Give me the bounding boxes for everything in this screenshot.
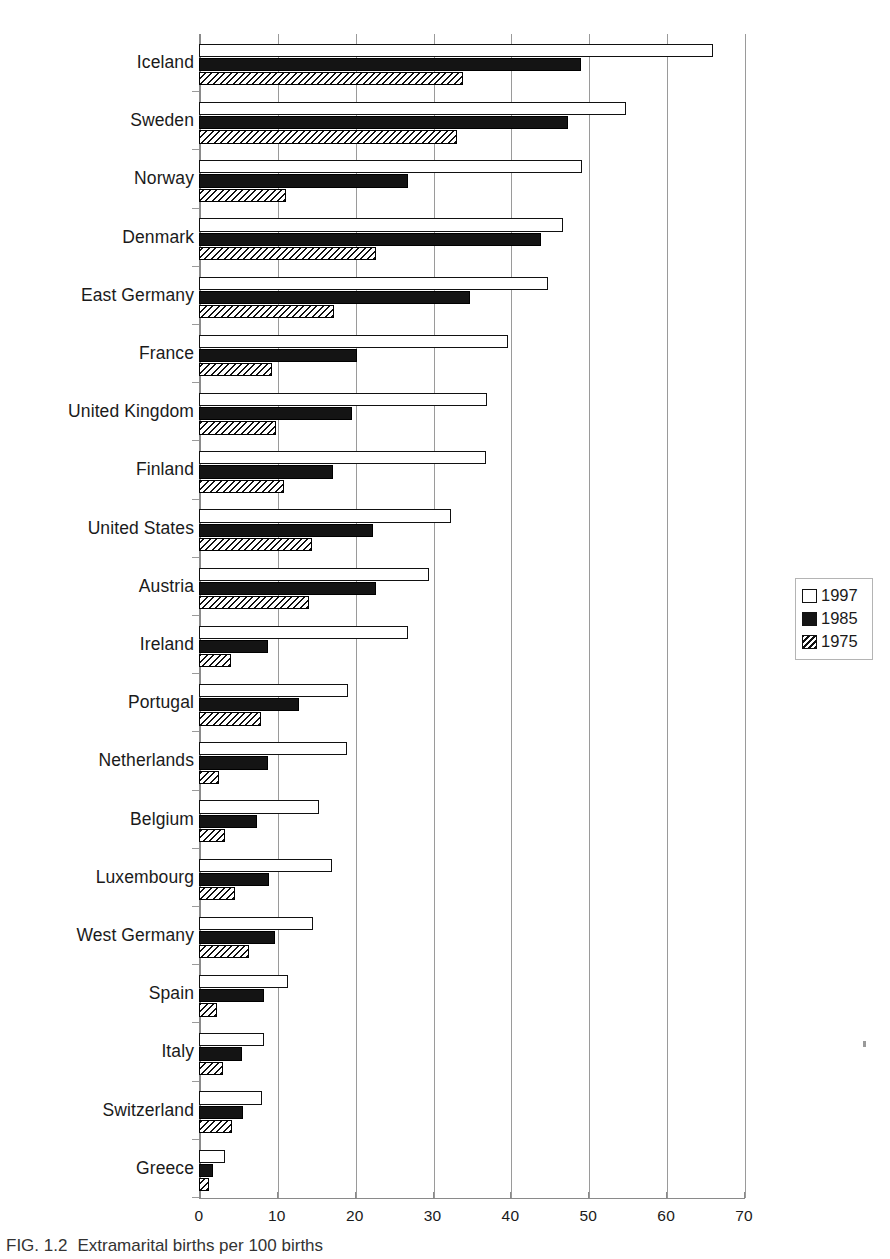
x-axis-tick-label: 20 <box>346 1207 364 1225</box>
chart-row: West Germany <box>0 907 890 965</box>
bar-1985 <box>199 640 268 653</box>
bar-1975 <box>199 829 225 842</box>
bar-1985 <box>199 931 275 944</box>
x-axis-tick-label: 60 <box>657 1207 675 1225</box>
bar-1975 <box>199 363 272 376</box>
bar-1985 <box>199 407 352 420</box>
bar-1997 <box>199 160 582 173</box>
bar-1997 <box>199 509 451 522</box>
bar-1985 <box>199 174 408 187</box>
bar-1985 <box>199 524 373 537</box>
bar-1985 <box>199 582 376 595</box>
chart-row: Greece <box>0 1140 890 1198</box>
y-axis-category-label: Greece <box>136 1158 194 1179</box>
y-axis-category-label: United States <box>88 518 194 539</box>
chart-row: Denmark <box>0 209 890 267</box>
y-axis-category-label: Norway <box>134 168 194 189</box>
bar-1997 <box>199 1150 225 1163</box>
bar-1985 <box>199 815 257 828</box>
bar-1975 <box>199 538 312 551</box>
legend-item: 1997 <box>802 584 866 607</box>
x-axis-tick-label: 0 <box>195 1207 204 1225</box>
bar-1997 <box>199 218 563 231</box>
chart-row: United States <box>0 500 890 558</box>
bar-1997 <box>199 451 486 464</box>
bar-1997 <box>199 44 713 57</box>
y-axis-category-label: Switzerland <box>102 1100 194 1121</box>
legend-label: 1975 <box>821 633 858 650</box>
bar-1975 <box>199 480 284 493</box>
y-axis-category-label: East Germany <box>81 285 194 306</box>
bar-1985 <box>199 1164 213 1177</box>
chart-legend: 1997 1985 1975 <box>795 578 873 660</box>
chart-row: Switzerland <box>0 1082 890 1140</box>
x-axis-tick <box>744 1192 745 1199</box>
bar-1997 <box>199 859 332 872</box>
y-axis-category-label: United Kingdom <box>68 401 194 422</box>
chart-row: Ireland <box>0 616 890 674</box>
legend-item: 1975 <box>802 630 866 653</box>
bar-1997 <box>199 1091 262 1104</box>
chart-row: Italy <box>0 1023 890 1081</box>
y-axis-category-label: France <box>139 343 194 364</box>
chart-row: Iceland <box>0 34 890 92</box>
legend-label: 1997 <box>821 587 858 604</box>
bar-1975 <box>199 1003 217 1016</box>
x-axis-tick-label: 40 <box>502 1207 520 1225</box>
x-axis-tick <box>277 1192 278 1199</box>
bar-1975 <box>199 1062 223 1075</box>
x-axis-tick <box>433 1192 434 1199</box>
bar-1997 <box>199 568 429 581</box>
chart-row: Netherlands <box>0 732 890 790</box>
bar-1985 <box>199 58 581 71</box>
y-axis-category-label: Ireland <box>140 634 194 655</box>
y-axis-category-label: Belgium <box>130 809 194 830</box>
y-axis-category-label: Sweden <box>130 110 194 131</box>
bar-1975 <box>199 945 249 958</box>
chart-row: Norway <box>0 150 890 208</box>
bar-1985 <box>199 116 568 129</box>
bar-1975 <box>199 305 334 318</box>
bar-1997 <box>199 975 288 988</box>
bar-1975 <box>199 421 276 434</box>
legend-swatch-1975-icon <box>802 635 817 649</box>
legend-item: 1985 <box>802 607 866 630</box>
bar-1997 <box>199 684 348 697</box>
y-axis-category-label: Finland <box>136 459 194 480</box>
bar-1997 <box>199 335 508 348</box>
x-axis-tick <box>588 1192 589 1199</box>
legend-swatch-1985-icon <box>802 612 817 626</box>
x-axis-tick-label: 70 <box>735 1207 753 1225</box>
bar-1985 <box>199 349 357 362</box>
bar-1997 <box>199 800 319 813</box>
chart-row: Luxembourg <box>0 849 890 907</box>
bar-1975 <box>199 72 463 85</box>
bar-1997 <box>199 393 487 406</box>
figure-container: IcelandSwedenNorwayDenmarkEast GermanyFr… <box>0 0 890 1259</box>
chart-row: Spain <box>0 965 890 1023</box>
bar-1975 <box>199 1178 209 1191</box>
bar-1975 <box>199 654 231 667</box>
chart-row: United Kingdom <box>0 383 890 441</box>
y-axis-category-label: Austria <box>139 576 194 597</box>
bar-1997 <box>199 277 548 290</box>
page-speck <box>863 1041 866 1047</box>
y-axis-category-label: West Germany <box>76 925 194 946</box>
bar-1975 <box>199 189 286 202</box>
chart-row: Austria <box>0 558 890 616</box>
x-axis-tick <box>510 1192 511 1199</box>
bar-1975 <box>199 596 309 609</box>
bar-1985 <box>199 465 333 478</box>
x-axis-tick <box>666 1192 667 1199</box>
figure-caption-text: Extramarital births per 100 births <box>77 1236 323 1255</box>
bar-1985 <box>199 291 470 304</box>
bar-1997 <box>199 742 347 755</box>
bar-1975 <box>199 130 457 143</box>
bar-1985 <box>199 1106 243 1119</box>
legend-label: 1985 <box>821 610 858 627</box>
x-axis-tick-label: 30 <box>424 1207 442 1225</box>
bar-1997 <box>199 626 408 639</box>
bar-1985 <box>199 1047 242 1060</box>
y-axis-category-label: Spain <box>149 983 194 1004</box>
chart-row: Belgium <box>0 791 890 849</box>
